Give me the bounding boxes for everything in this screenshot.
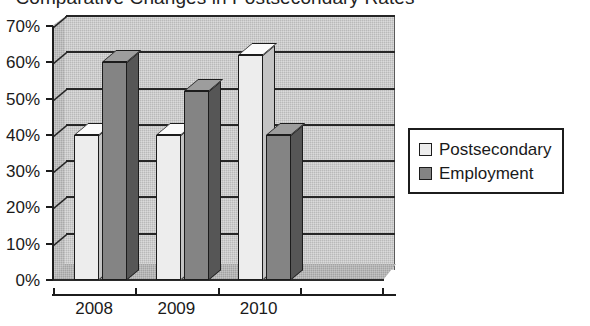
bar-front-face bbox=[184, 91, 209, 280]
y-axis-tick bbox=[46, 206, 53, 208]
bar-2009-postsecondary bbox=[156, 135, 181, 280]
bar-front-face bbox=[74, 135, 99, 280]
bar-front-face bbox=[156, 135, 181, 280]
x-axis-line bbox=[52, 294, 396, 296]
bar-2010-employment bbox=[266, 135, 291, 280]
y-axis-tick bbox=[46, 170, 53, 172]
legend-item-employment: Employment bbox=[419, 161, 551, 185]
bar-2010-postsecondary bbox=[238, 55, 263, 280]
legend-item-label: Employment bbox=[439, 165, 533, 182]
y-axis-tick bbox=[46, 61, 53, 63]
x-axis-tick-label: 2008 bbox=[75, 299, 113, 319]
legend-item-postsecondary: Postsecondary bbox=[419, 137, 551, 161]
x-axis-tick bbox=[218, 288, 220, 296]
bar-2008-postsecondary bbox=[74, 135, 99, 280]
y-axis-tick bbox=[46, 243, 53, 245]
bar-front-face bbox=[102, 62, 127, 280]
y-axis-tick bbox=[46, 98, 53, 100]
legend-swatch-icon bbox=[419, 167, 432, 180]
y-axis-tick bbox=[46, 134, 53, 136]
bar-2009-employment bbox=[184, 91, 209, 280]
x-axis-tick-label: 2010 bbox=[240, 299, 278, 319]
bar-side-face bbox=[209, 81, 221, 280]
bar-side-face bbox=[127, 52, 139, 280]
x-axis-tick bbox=[53, 288, 55, 296]
bar-2008-employment bbox=[102, 62, 127, 280]
legend-swatch-icon bbox=[419, 143, 432, 156]
legend-item-label: Postsecondary bbox=[439, 141, 551, 158]
x-axis-tick bbox=[300, 288, 302, 296]
bar-front-face bbox=[266, 135, 291, 280]
y-axis-tick bbox=[46, 279, 53, 281]
x-axis-tick-label: 2009 bbox=[157, 299, 195, 319]
y-axis-tick bbox=[46, 25, 53, 27]
bar-front-face bbox=[238, 55, 263, 280]
chart-legend: Postsecondary Employment bbox=[408, 128, 564, 194]
bar-chart: Comparative Changes in Postsecondary Rat… bbox=[0, 0, 590, 326]
x-axis-tick bbox=[382, 288, 384, 296]
x-axis-tick bbox=[135, 288, 137, 296]
bar-side-face bbox=[291, 125, 303, 280]
